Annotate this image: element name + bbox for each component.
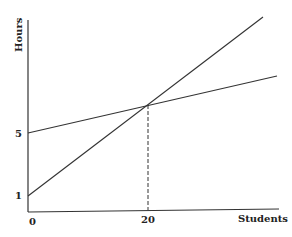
y-tick-5: 5	[15, 128, 22, 139]
x-axis	[28, 209, 279, 212]
y-tick-1: 1	[15, 190, 22, 201]
x-tick-0: 0	[29, 216, 36, 227]
y-axis-label: Hours	[13, 17, 24, 52]
shallow-line	[28, 76, 277, 133]
x-tick-20: 20	[141, 214, 155, 225]
break-even-chart: Hours 5 1 0 20 Students	[0, 0, 292, 237]
x-axis-label: Students	[238, 213, 288, 224]
